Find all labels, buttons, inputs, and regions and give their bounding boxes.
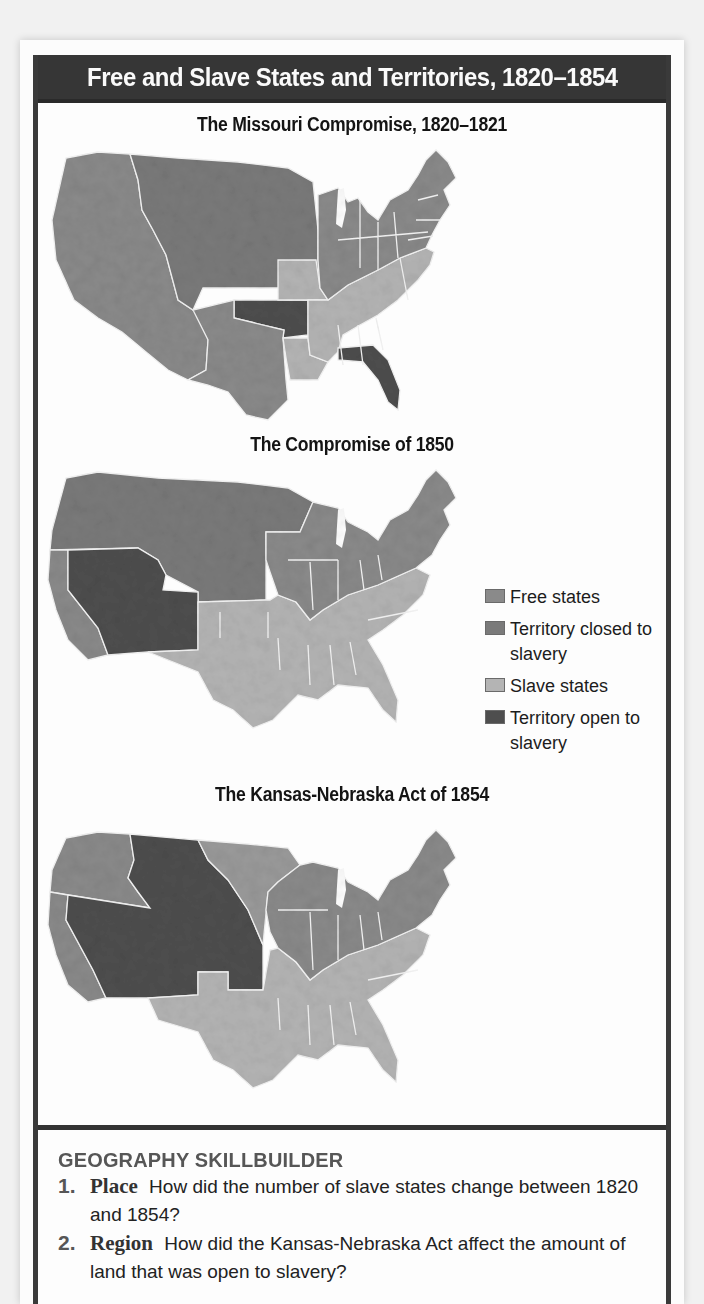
question-text: Region How did the Kansas-Nebraska Act a… [90,1229,650,1286]
question-body: How did the Kansas-Nebraska Act affect t… [90,1233,625,1282]
map-kansas-nebraska [38,815,478,1125]
map-heading-kansas-nebraska: The Kansas-Nebraska Act of 1854 [76,783,629,806]
legend-swatch-free-states [485,589,505,603]
map-heading-compromise-1850: The Compromise of 1850 [76,433,629,456]
legend-item-territory-closed: Territory closed to slavery [485,617,675,667]
question-text: Place How did the number of slave states… [90,1172,650,1229]
legend-item-slave-states: Slave states [485,674,675,699]
legend-label: Territory closed to slavery [510,617,675,667]
map-compromise-1850 [38,460,478,760]
question-theme: Region [90,1231,153,1255]
legend-swatch-slave-states [485,678,505,692]
legend-label: Territory open to slavery [510,706,675,756]
region-florida-territory [338,345,400,410]
legend-item-free-states: Free states [485,585,675,610]
legend-label: Free states [510,585,600,610]
legend-item-territory-open: Territory open to slavery [485,706,675,756]
map-missouri-compromise [38,140,478,440]
geography-skillbuilder: GEOGRAPHY SKILLBUILDER 1. Place How did … [38,1125,666,1304]
legend-swatch-territory-closed [485,621,505,635]
question-number: 1. [58,1172,90,1229]
question-theme: Place [90,1174,138,1198]
question-number: 2. [58,1229,90,1286]
legend-swatch-territory-open [485,710,505,724]
legend-label: Slave states [510,674,608,699]
question-body: How did the number of slave states chang… [90,1176,638,1225]
skillbuilder-heading: GEOGRAPHY SKILLBUILDER [58,1148,636,1172]
map-legend: Free states Territory closed to slavery … [485,585,675,763]
figure-title: Free and Slave States and Territories, 1… [87,62,618,93]
map-figure: Free and Slave States and Territories, 1… [33,55,671,1304]
question-1: 1. Place How did the number of slave sta… [58,1172,666,1229]
figure-title-bar: Free and Slave States and Territories, 1… [38,55,666,103]
map-heading-missouri-compromise: The Missouri Compromise, 1820–1821 [76,113,629,136]
question-2: 2. Region How did the Kansas-Nebraska Ac… [58,1229,666,1286]
